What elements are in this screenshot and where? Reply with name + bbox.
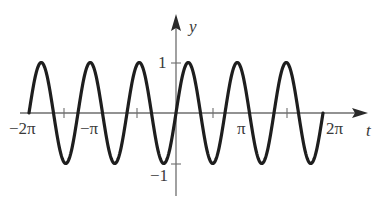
x-tick-label-two-pi: 2π bbox=[326, 119, 344, 138]
sine-chart: −2π −π π 2π t y 1 −1 bbox=[0, 0, 388, 198]
x-axis-label: t bbox=[366, 121, 372, 140]
y-tick-label-one: 1 bbox=[158, 53, 167, 72]
x-tick-label-pi: π bbox=[237, 119, 246, 138]
y-tick-label-neg-one: −1 bbox=[150, 166, 168, 185]
x-tick-label-neg-two-pi: −2π bbox=[9, 119, 36, 138]
x-tick-label-neg-pi: −π bbox=[80, 119, 99, 138]
y-axis-label: y bbox=[187, 17, 197, 36]
